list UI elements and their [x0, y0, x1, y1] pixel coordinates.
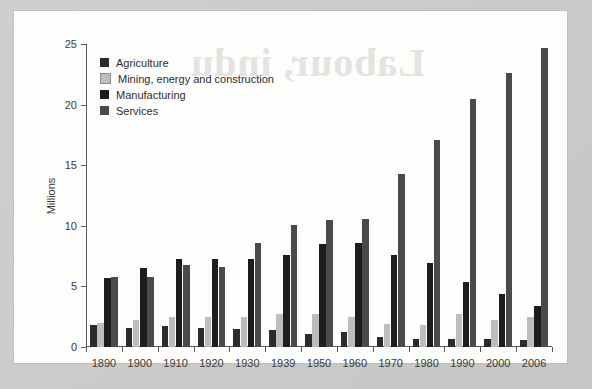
bar [205, 317, 212, 347]
bar [183, 265, 190, 347]
bar [276, 314, 283, 347]
bar [233, 329, 240, 347]
legend-swatch-icon [100, 58, 109, 67]
x-axis-tick [444, 347, 445, 352]
y-axis-tick-label: 25 [65, 38, 77, 50]
bar [283, 255, 290, 347]
y-axis-tick-label: 15 [65, 159, 77, 171]
legend-label: Manufacturing [116, 89, 186, 101]
bar [255, 243, 262, 347]
bar [491, 320, 498, 347]
bar [348, 317, 355, 347]
legend-label: Agriculture [116, 57, 169, 69]
bar [147, 277, 154, 347]
chart-page: Labour, indu Millions 0510152025 1890190… [0, 0, 592, 389]
x-axis-tick [122, 347, 123, 352]
x-axis-tick [86, 347, 87, 352]
bar [355, 243, 362, 347]
bar [169, 317, 176, 347]
bar [162, 326, 169, 347]
legend-swatch-icon [100, 73, 111, 84]
x-axis-tick [552, 347, 553, 352]
x-axis-tick-label: 1980 [414, 357, 438, 369]
x-axis-tick [194, 347, 195, 352]
x-axis-tick [516, 347, 517, 352]
x-axis-tick-label: 1960 [343, 357, 367, 369]
x-axis-tick [409, 347, 410, 352]
x-axis-tick [337, 347, 338, 352]
bar [126, 328, 133, 347]
bar [384, 324, 391, 347]
bar [133, 320, 140, 347]
bar [326, 220, 333, 347]
bar [104, 278, 111, 347]
x-axis-tick-label: 1900 [128, 357, 152, 369]
legend-item: Agriculture [100, 55, 274, 70]
bar [463, 282, 470, 347]
bar [527, 317, 534, 347]
bar [90, 325, 97, 347]
bar [391, 255, 398, 347]
x-axis-tick-label: 1930 [235, 357, 259, 369]
legend-swatch-icon [100, 106, 109, 115]
bar [111, 277, 118, 347]
bar [140, 268, 147, 347]
bar [198, 328, 205, 347]
bar [398, 174, 405, 347]
bar [291, 225, 298, 347]
x-axis-tick-label: 1890 [92, 357, 116, 369]
bar [434, 140, 441, 347]
x-axis-tick [158, 347, 159, 352]
bar [241, 317, 248, 347]
x-axis-tick [373, 347, 374, 352]
x-axis-tick [229, 347, 230, 352]
bar [269, 330, 276, 347]
x-axis-tick-label: 1920 [199, 357, 223, 369]
x-axis-tick-label: 1970 [378, 357, 402, 369]
x-axis-tick [301, 347, 302, 352]
x-axis-tick-label: 1990 [450, 357, 474, 369]
legend-label: Mining, energy and construction [118, 73, 274, 85]
y-axis-title: Millions [45, 177, 57, 214]
bar [506, 73, 513, 347]
chart-legend: AgricultureMining, energy and constructi… [100, 55, 274, 119]
bar [248, 259, 255, 347]
y-axis-tick-label: 5 [71, 280, 77, 292]
bar [176, 259, 183, 347]
bar [448, 339, 455, 347]
x-axis-tick [265, 347, 266, 352]
bar [541, 48, 548, 347]
y-axis-tick-label: 20 [65, 99, 77, 111]
bar [212, 259, 219, 347]
bar [413, 339, 420, 347]
bar [319, 244, 326, 347]
bar [520, 340, 527, 347]
bar [97, 323, 104, 347]
bar [499, 294, 506, 347]
x-axis-tick-label: 2006 [522, 357, 546, 369]
y-axis-tick-label: 10 [65, 220, 77, 232]
legend-label: Services [116, 105, 158, 117]
legend-item: Mining, energy and construction [100, 71, 274, 86]
legend-item: Manufacturing [100, 87, 274, 102]
bar [341, 332, 348, 347]
bar [305, 334, 312, 347]
legend-item: Services [100, 103, 274, 118]
x-axis-tick-label: 1950 [307, 357, 331, 369]
bar [427, 263, 434, 347]
bar [362, 219, 369, 347]
y-axis-tick-label: 0 [71, 341, 77, 353]
bar [420, 325, 427, 347]
x-axis-tick-label: 2000 [486, 357, 510, 369]
x-axis-tick-label: 1910 [163, 357, 187, 369]
bar [470, 99, 477, 347]
bar [456, 314, 463, 347]
bar [219, 267, 226, 347]
bar [484, 339, 491, 347]
x-axis-tick-label: 1939 [271, 357, 295, 369]
x-axis-tick [480, 347, 481, 352]
chart-card: Labour, indu Millions 0510152025 1890190… [14, 11, 567, 363]
bar [312, 314, 319, 347]
legend-swatch-icon [100, 90, 109, 99]
bar [377, 337, 384, 347]
